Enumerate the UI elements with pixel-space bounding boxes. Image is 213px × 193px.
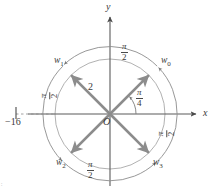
angle-label-pi-over-4: π 4 (136, 88, 143, 108)
angle-label-right-numerator: π (156, 131, 165, 138)
vector-label-w3-index: 3 (159, 162, 163, 170)
figure-canvas (0, 0, 213, 193)
angle-label-bottom-denominator: 2 (87, 171, 94, 180)
vector-w3 (110, 114, 149, 153)
vector-label-w2: w2 (56, 158, 66, 170)
corner-artifact-mark: ∶ (1, 181, 2, 187)
vector-label-w3: w3 (153, 158, 163, 170)
vector-label-w1: w1 (54, 56, 64, 68)
angle-arc-left-pi-over-2 (43, 66, 63, 160)
angle-label-left-denominator: 2 (50, 93, 59, 100)
angle-label-bottom-numerator: π (87, 160, 94, 169)
x-axis-label: x (203, 108, 207, 118)
angle-label-left-numerator: π (39, 93, 48, 100)
y-axis-label: y (106, 2, 110, 12)
angle-label-right-denominator: 2 (167, 131, 176, 138)
angle-label-top-pi-over-2: π 2 (121, 42, 128, 62)
complex-plane-roots-figure: x y O −16 2 w0 w1 w2 w3 π 4 π 2 π 2 π 2 … (0, 0, 213, 193)
angle-label-top-numerator: π (121, 42, 128, 51)
vector-label-w0-index: 0 (167, 60, 171, 68)
x-tick-label-minus16: −16 (5, 117, 21, 127)
vector-label-w2-index: 2 (62, 162, 66, 170)
angle-label-left-pi-over-2: π 2 (39, 93, 59, 100)
angle-label-top-denominator: 2 (121, 53, 128, 62)
radius-length-label: 2 (88, 82, 93, 92)
angle-label-right-pi-over-2: π 2 (156, 131, 176, 138)
angle-label-bottom-pi-over-2: π 2 (87, 160, 94, 180)
origin-label: O (103, 117, 110, 127)
angle-arc-top-pi-over-2 (64, 47, 157, 67)
vector-label-w1-index: 1 (60, 60, 64, 68)
vector-label-w0: w0 (161, 56, 171, 68)
vector-w0 (110, 75, 149, 114)
angle-label-pi-over-4-numerator: π (136, 88, 143, 97)
angle-label-pi-over-4-denominator: 4 (136, 99, 143, 108)
